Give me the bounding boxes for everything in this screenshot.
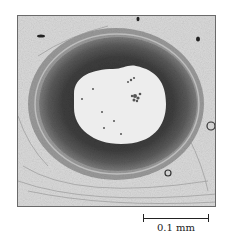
scale-bar bbox=[143, 214, 209, 222]
scale-bar-left-tick bbox=[143, 214, 144, 222]
artery-cross-section bbox=[18, 16, 216, 207]
scale-bar-right-tick bbox=[208, 214, 209, 222]
lumen bbox=[74, 66, 166, 144]
scale-bar-line bbox=[143, 218, 209, 219]
scale-bar-label: 0.1 mm bbox=[143, 222, 209, 233]
micrograph bbox=[17, 15, 216, 207]
